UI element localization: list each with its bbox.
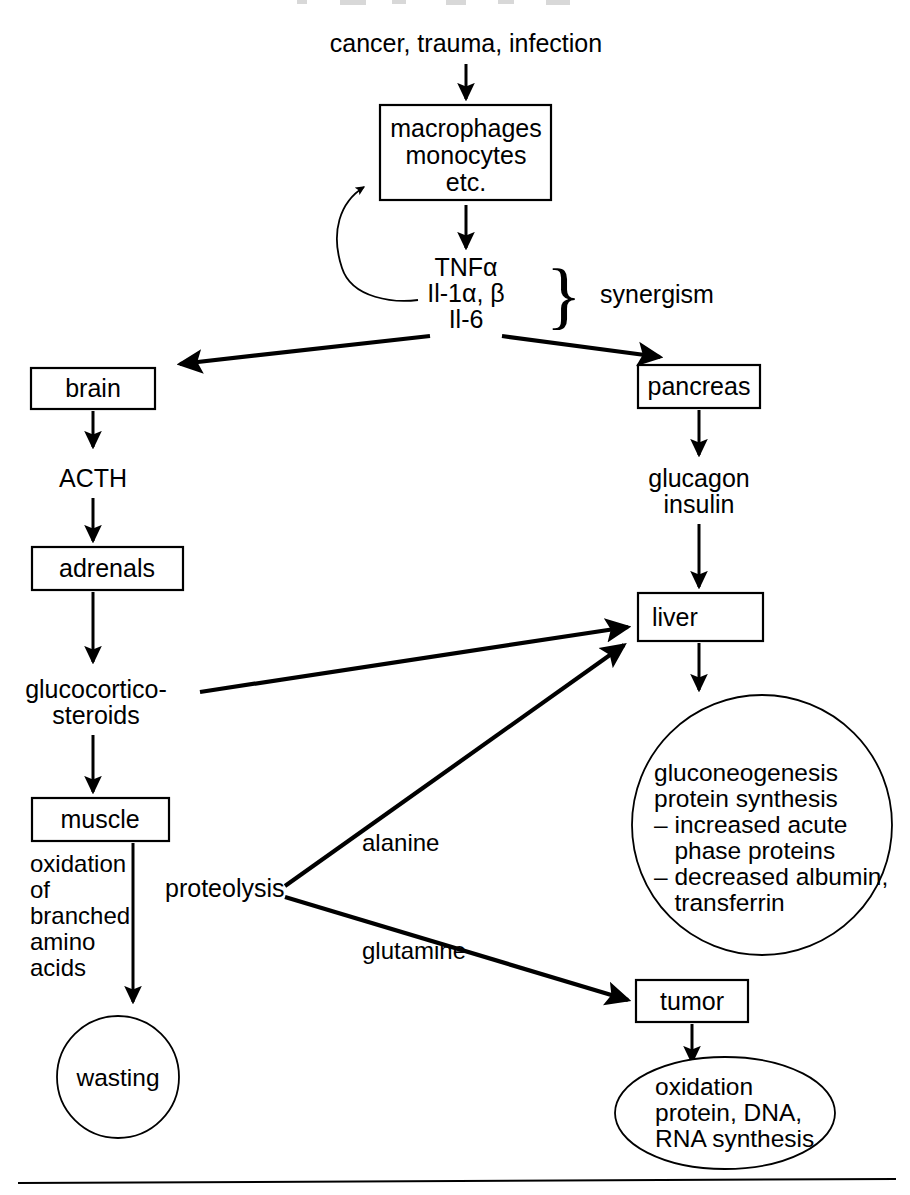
glutamine-label: glutamine [362,937,466,964]
node-wasting: wasting [57,1016,179,1138]
liver-functions-line2: protein synthesis [654,785,838,812]
synergism-brace-icon: } [546,254,582,336]
glucocorticosteroids-line2: steroids [52,701,140,729]
node-glucocorticosteroids: glucocortico- steroids [25,675,167,729]
synergism-label: synergism [600,280,714,308]
node-muscle: muscle [32,798,169,841]
macrophages-line2: monocytes [406,141,527,169]
macrophages-line1: macrophages [390,114,541,142]
tumor-functions-line3: RNA synthesis [655,1125,814,1152]
cytokine-tnf-alpha: TNFα [434,253,497,281]
tumor-functions-line1: oxidation [655,1073,753,1100]
hormones-insulin: insulin [664,490,735,518]
oxidation-bcaa-line3: branched [30,902,130,929]
macrophages-line3: etc. [446,168,486,196]
node-adrenals: adrenals [32,547,183,590]
oxidation-bcaa-line1: oxidation [30,850,126,877]
tumor-functions-line2: protein, DNA, [655,1099,802,1126]
liver-functions-line3: – increased acute [654,811,847,838]
hormones-glucagon: glucagon [648,464,749,492]
pathway-flowchart: cancer, trauma, infection macrophages mo… [0,0,910,1195]
node-tumor-functions: oxidation protein, DNA, RNA synthesis [615,1057,835,1169]
node-cytokines: TNFα Il-1α, β Il-6 [427,253,504,333]
oxidation-bcaa-line4: amino [30,928,95,955]
cytokine-il6: Il-6 [449,305,484,333]
edge-cytokines-to-brain [180,336,430,364]
oxidation-bcaa-label: oxidation of branched amino acids [30,850,130,981]
stimulus-label: cancer, trauma, infection [330,29,602,57]
liver-functions-line1: gluconeogenesis [654,759,838,786]
bottom-divider-rule [18,1179,896,1183]
oxidation-bcaa-line5: acids [30,954,86,981]
node-hormones: glucagon insulin [648,464,749,518]
wasting-label: wasting [75,1064,159,1091]
diagram-canvas: cancer, trauma, infection macrophages mo… [0,0,910,1195]
edge-glucocorticosteroids-to-liver [200,627,628,692]
node-brain: brain [31,368,155,409]
node-liver: liver [638,593,763,641]
acth-label: ACTH [59,464,127,492]
edge-cytokines-feedback-to-macrophages [337,187,418,301]
liver-functions-line6: transferrin [654,889,785,916]
adrenals-label: adrenals [59,554,155,582]
glucocorticosteroids-line1: glucocortico- [25,675,167,703]
alanine-label: alanine [362,829,439,856]
node-tumor: tumor [636,980,748,1022]
liver-functions-line5: – decreased albumin, [654,863,888,890]
muscle-label: muscle [60,805,139,833]
node-liver-functions: gluconeogenesis protein synthesis – incr… [632,695,892,955]
edge-proteolysis-to-liver [285,645,624,886]
liver-functions-line4: phase proteins [654,837,835,864]
cropped-title-remnant [297,0,570,5]
brain-label: brain [65,374,121,402]
edge-cytokines-to-pancreas [502,336,660,357]
node-macrophages: macrophages monocytes etc. [380,105,551,200]
oxidation-bcaa-line2: of [30,876,50,903]
liver-label: liver [652,603,698,631]
cytokine-il1: Il-1α, β [427,279,504,307]
tumor-label: tumor [660,987,724,1015]
pancreas-label: pancreas [648,372,751,400]
proteolysis-label: proteolysis [165,874,285,902]
node-pancreas: pancreas [638,365,760,408]
